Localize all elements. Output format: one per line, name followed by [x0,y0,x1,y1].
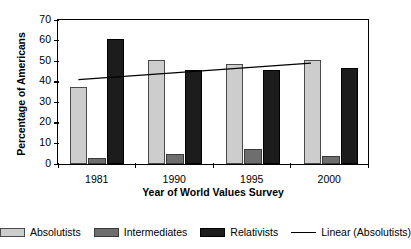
legend-item-intermediates: Intermediates [94,226,188,238]
legend-label: Absolutists [30,226,81,238]
plot-area: 010203040506070 1981199019952000 [57,19,369,165]
x-tick-label: 1995 [222,173,282,185]
x-tick-label: 1990 [144,173,204,185]
y-tick-label: 0 [45,157,51,169]
legend-label: Intermediates [124,226,188,238]
legend-item-relativists: Relativists [200,226,278,238]
legend-label: Relativists [230,226,278,238]
legend-color-swatch [200,228,225,237]
y-tick-label: 70 [39,13,51,25]
y-tick-label: 30 [39,95,51,107]
y-axis-title: Percentage of Americans [15,14,27,174]
legend-item-linear-absolutists: Linear (Absolutists) [291,226,411,238]
legend-color-swatch [0,228,25,237]
x-tick-label: 2000 [299,173,359,185]
bar-chart: Percentage of Americans 010203040506070 … [0,0,411,249]
y-tick-label: 60 [39,33,51,45]
y-tick-label: 10 [39,136,51,148]
legend-color-swatch [94,228,119,237]
legend-line-swatch [291,228,316,237]
trendline-linear-absolutists [58,20,368,164]
x-axis-title: Year of World Values Survey [57,186,369,198]
y-tick-label: 20 [39,115,51,127]
legend-item-absolutists: Absolutists [0,226,81,238]
x-tick-label: 1981 [67,173,127,185]
trendline-path [78,63,311,79]
legend-label: Linear (Absolutists) [321,226,411,238]
y-tick-label: 50 [39,54,51,66]
y-tick-label: 40 [39,74,51,86]
chart-legend: AbsolutistsIntermediatesRelativistsLinea… [0,226,411,238]
